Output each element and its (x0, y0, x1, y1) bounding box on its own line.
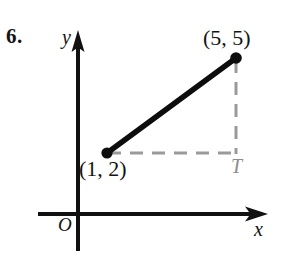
coordinate-geometry-figure: 6. y x O (5, 5) (1, 2) T (0, 0, 281, 268)
point-b-dot (230, 52, 242, 64)
y-axis-label: y (62, 27, 71, 47)
x-axis-label: x (254, 219, 263, 239)
problem-number: 6. (6, 26, 23, 47)
segment-ab (107, 58, 236, 153)
point-t-label: T (231, 156, 242, 176)
origin-label: O (58, 215, 72, 234)
point-b-label: (5, 5) (203, 27, 251, 49)
point-a-label: (1, 2) (79, 158, 127, 180)
